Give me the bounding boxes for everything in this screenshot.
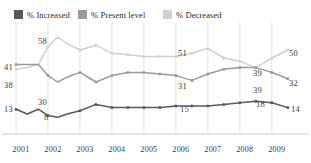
value-label-increased: 8 — [44, 112, 48, 122]
x-tick-2001: 2001 — [4, 145, 38, 154]
value-label-increased: 13 — [4, 104, 13, 114]
chart-legend: % Increased % Present level % Decreased — [0, 0, 311, 22]
value-label-decreased: 50 — [289, 48, 298, 58]
data-point-increased — [110, 106, 113, 109]
data-point-present-level — [190, 79, 193, 82]
data-point-decreased — [190, 52, 193, 55]
data-point-increased — [158, 106, 161, 109]
data-point-decreased — [110, 52, 113, 55]
series-line-present-level — [16, 64, 288, 82]
data-point-increased — [94, 103, 97, 106]
x-tick-2009: 2009 — [260, 145, 294, 154]
data-point-present-level — [270, 71, 273, 74]
data-point-increased — [174, 105, 177, 108]
data-point-present-level — [222, 68, 225, 71]
value-label-increased: 14 — [291, 104, 300, 114]
x-tick-2003: 2003 — [68, 145, 102, 154]
data-point-present-level — [206, 73, 209, 76]
x-axis: 200120022003200420052006200720082009 — [0, 140, 311, 163]
value-label-decreased: 58 — [38, 36, 47, 46]
data-point-decreased — [15, 68, 18, 71]
data-point-present-level — [126, 71, 129, 74]
x-tick-2005: 2005 — [132, 145, 166, 154]
value-label-increased: 18 — [256, 99, 265, 109]
legend-label-increased: % Increased — [27, 10, 70, 20]
data-point-present-level — [238, 66, 241, 69]
data-point-decreased — [142, 55, 145, 58]
value-label-decreased: 38 — [4, 80, 13, 90]
data-point-decreased — [222, 57, 225, 60]
data-point-decreased — [78, 49, 81, 52]
line-chart: % Increased % Present level % Decreased … — [0, 0, 311, 163]
x-tick-2006: 2006 — [164, 145, 198, 154]
data-point-present-level — [142, 71, 145, 74]
legend-item-decreased[interactable]: % Decreased — [163, 4, 222, 17]
series-increased — [15, 100, 290, 118]
value-label-present-level: 39 — [253, 85, 262, 95]
data-point-increased — [15, 108, 18, 111]
series-present-level — [15, 63, 290, 84]
value-label-present-level: 31 — [178, 81, 187, 91]
square-swatch-icon — [14, 10, 23, 19]
value-label-present-level: 32 — [289, 78, 298, 88]
legend-label-decreased: % Decreased — [176, 10, 222, 20]
x-tick-2002: 2002 — [36, 145, 70, 154]
data-point-present-level — [158, 73, 161, 76]
data-point-increased — [286, 106, 289, 109]
legend-label-present-level: % Present level — [91, 10, 145, 20]
data-point-present-level — [46, 74, 49, 77]
series-decreased — [15, 37, 290, 70]
data-point-decreased — [174, 55, 177, 58]
data-point-decreased — [94, 44, 97, 47]
value-label-decreased: 39 — [253, 68, 262, 78]
data-point-increased — [222, 103, 225, 106]
value-label-decreased: 51 — [178, 48, 187, 58]
square-swatch-icon — [78, 10, 87, 19]
data-point-increased — [206, 105, 209, 108]
value-label-present-level: 41 — [4, 62, 13, 72]
data-series-group — [15, 37, 290, 117]
data-point-increased — [190, 105, 193, 108]
legend-item-present-level[interactable]: % Present level — [78, 4, 145, 17]
data-point-present-level — [78, 71, 81, 74]
data-point-present-level — [110, 74, 113, 77]
x-tick-2007: 2007 — [196, 145, 230, 154]
data-point-present-level — [174, 74, 177, 77]
x-tick-2004: 2004 — [100, 145, 134, 154]
x-tick-2008: 2008 — [228, 145, 262, 154]
data-point-decreased — [238, 60, 241, 63]
data-point-decreased — [126, 53, 129, 56]
data-point-decreased — [206, 47, 209, 50]
data-point-increased — [78, 109, 81, 112]
data-point-increased — [238, 101, 241, 104]
value-label-present-level: 30 — [38, 97, 47, 107]
data-point-increased — [142, 106, 145, 109]
series-line-increased — [16, 101, 288, 117]
data-point-decreased — [46, 45, 49, 48]
data-point-increased — [126, 106, 129, 109]
data-point-present-level — [15, 63, 18, 66]
data-point-increased — [270, 101, 273, 104]
data-point-decreased — [270, 57, 273, 60]
data-point-decreased — [158, 55, 161, 58]
square-swatch-icon — [163, 10, 172, 19]
legend-item-increased[interactable]: % Increased — [14, 4, 70, 17]
series-line-decreased — [16, 37, 288, 69]
data-point-present-level — [94, 81, 97, 84]
value-label-increased: 15 — [180, 104, 189, 114]
